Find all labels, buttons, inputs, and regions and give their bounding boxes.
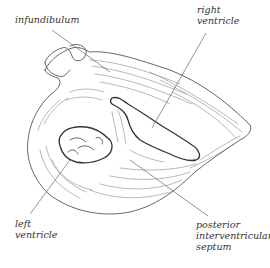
- label-line: septum: [196, 241, 270, 252]
- left-ventricle-cavity: [59, 127, 112, 163]
- label-posterior-interventricular-septum: posterior interventricular septum: [196, 219, 270, 252]
- label-line: posterior: [196, 219, 270, 230]
- label-line: interventricular: [196, 230, 270, 241]
- leader-septum: [130, 160, 208, 216]
- leader-right-ventricle: [152, 33, 206, 128]
- label-line: ventricle: [15, 229, 58, 240]
- label-infundibulum: infundibulum: [15, 14, 79, 25]
- label-line: ventricle: [197, 15, 240, 26]
- label-line: infundibulum: [15, 14, 79, 25]
- right-ventricle-cavity: [111, 97, 200, 160]
- leader-left-ventricle: [30, 160, 70, 214]
- label-line: left: [15, 218, 58, 229]
- leader-infundibulum: [52, 30, 110, 72]
- label-line: right: [197, 4, 240, 15]
- label-right-ventricle: right ventricle: [197, 4, 240, 26]
- label-left-ventricle: left ventricle: [15, 218, 58, 240]
